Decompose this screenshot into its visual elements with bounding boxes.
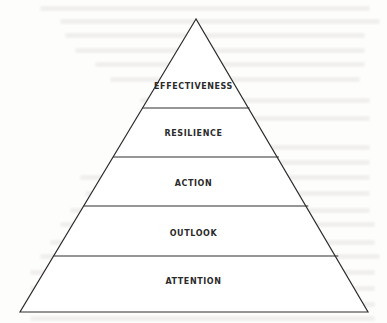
level-label-action: ACTION (0, 179, 387, 189)
level-label-outlook: OUTLOOK (0, 229, 387, 239)
pyramid-diagram: EFFECTIVENESS RESILIENCE ACTION OUTLOOK … (0, 0, 387, 323)
level-label-attention: ATTENTION (0, 277, 387, 287)
level-label-effectiveness: EFFECTIVENESS (0, 82, 387, 92)
pyramid-outline (20, 19, 368, 312)
pyramid-shape (0, 0, 387, 323)
level-label-resilience: RESILIENCE (0, 129, 387, 139)
